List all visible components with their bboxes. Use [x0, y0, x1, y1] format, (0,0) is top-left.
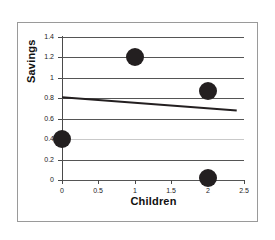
x-axis-tick: [135, 180, 136, 184]
x-axis-tick: [98, 180, 99, 184]
x-axis-tick: [62, 180, 63, 184]
y-axis-tick-label: 0.8: [44, 94, 54, 102]
y-axis-tick-label: 0.2: [44, 156, 54, 164]
x-axis-tick-label: 1.5: [161, 187, 181, 195]
gridline-y: [62, 180, 244, 181]
y-axis-tick-label: 1.4: [44, 33, 54, 41]
trend-line: [62, 37, 244, 180]
scatter-chart-figure: Savings 00.20.40.60.811.21.400.511.522.5…: [0, 0, 275, 240]
y-axis-tick-label: 0: [50, 176, 54, 184]
x-axis-tick-label: 1: [125, 187, 145, 195]
x-axis-tick-label: 0: [52, 187, 72, 195]
y-axis-tick-label: 1: [50, 74, 54, 82]
y-axis-title: Savings: [25, 69, 37, 83]
x-axis-tick-label: 2: [198, 187, 218, 195]
x-axis-tick: [171, 180, 172, 184]
trend-line-segment: [62, 97, 237, 110]
x-axis-title: Children: [62, 195, 245, 207]
x-axis-tick-label: 0.5: [88, 187, 108, 195]
x-axis-tick-label: 2.5: [234, 187, 254, 195]
y-axis-tick-label: 0.6: [44, 115, 54, 123]
y-axis-tick-label: 1.2: [44, 53, 54, 61]
x-axis-tick: [244, 180, 245, 184]
